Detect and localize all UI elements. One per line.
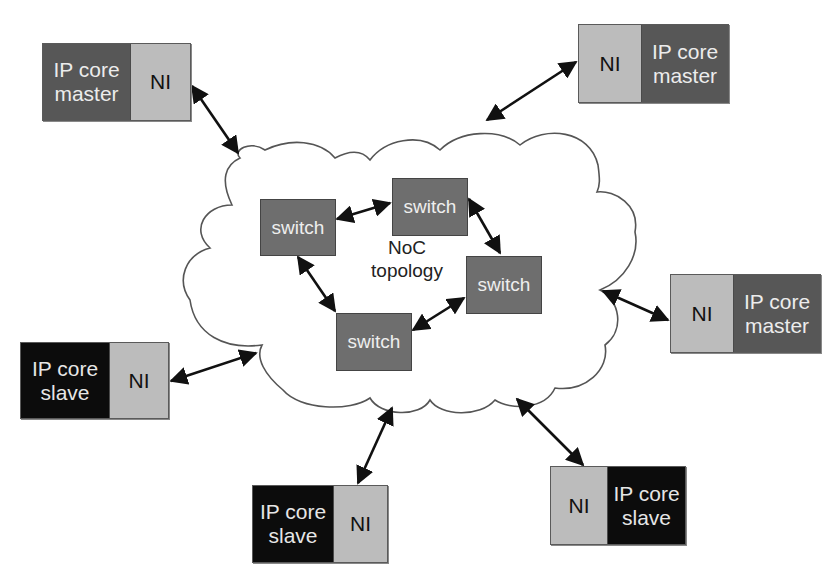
ip-core-slave-left: IP coreslave <box>21 343 109 418</box>
switch-left: switch <box>260 199 336 256</box>
ip-node-top-right: NI IP coremaster <box>578 24 729 103</box>
ip-role-label: master <box>652 64 718 88</box>
ip-node-right: NI IP coremaster <box>670 274 821 353</box>
ip-core-label: IP core <box>613 482 679 506</box>
noc-label: NoC <box>352 236 462 259</box>
link-bottom-right-node <box>517 399 583 465</box>
ip-node-bottom: IP coreslave NI <box>252 485 388 563</box>
link-top-left-node <box>192 86 238 153</box>
ni-top-right: NI <box>579 25 641 102</box>
ip-core-master-top-left: IP coremaster <box>43 44 130 120</box>
switch-right: switch <box>466 256 542 314</box>
ip-core-label: IP core <box>32 357 98 381</box>
topology-label: topology <box>352 259 462 282</box>
ip-role-label: master <box>744 314 810 338</box>
noc-topology-label: NoC topology <box>352 236 462 282</box>
ip-node-bottom-right: NI IP coreslave <box>550 466 686 545</box>
ip-role-label: slave <box>613 506 679 530</box>
ip-core-label: IP core <box>260 500 326 524</box>
ip-node-left: IP coreslave NI <box>20 342 169 419</box>
ip-core-slave-bottom: IP coreslave <box>253 486 333 562</box>
ip-core-label: IP core <box>652 40 718 64</box>
ip-role-label: slave <box>32 381 98 405</box>
ip-core-slave-bottom-right: IP coreslave <box>607 467 685 544</box>
link-top-right-node <box>487 62 576 120</box>
ip-core-master-right: IP coremaster <box>733 275 820 352</box>
ip-core-label: IP core <box>744 290 810 314</box>
ni-bottom-right: NI <box>551 467 607 544</box>
link-left-node <box>171 353 256 381</box>
ip-core-master-top-right: IP coremaster <box>641 25 728 102</box>
ip-core-label: IP core <box>53 58 119 82</box>
ip-role-label: slave <box>260 524 326 548</box>
link-bottom-node <box>358 408 392 483</box>
switch-top: switch <box>392 178 468 236</box>
ni-right: NI <box>671 275 733 352</box>
ip-role-label: master <box>53 82 119 106</box>
ip-node-top-left: IP coremaster NI <box>42 43 191 121</box>
switch-bottom: switch <box>336 313 412 371</box>
ni-left: NI <box>109 343 168 418</box>
ni-top-left: NI <box>130 44 190 120</box>
ni-bottom: NI <box>333 486 387 562</box>
